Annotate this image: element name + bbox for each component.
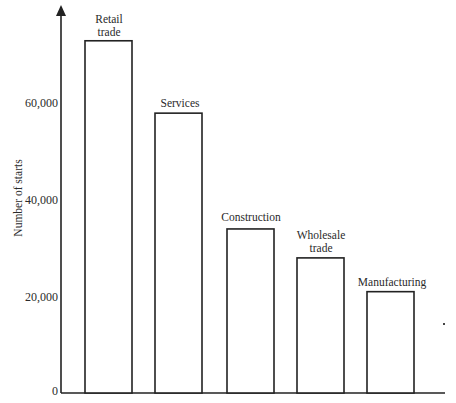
bar-label-services: Services: [149, 97, 211, 110]
bar-label-line1: Services: [149, 97, 211, 110]
y-axis-label: Number of starts: [12, 148, 24, 248]
bar-label-retail-trade: Retail trade: [78, 13, 140, 39]
y-tick-20000: 20,000: [0, 290, 58, 305]
bar-label-line1: Construction: [213, 211, 289, 224]
bar-label-construction: Construction: [213, 211, 289, 224]
y-tick-40000: 40,000: [0, 193, 58, 208]
bar-label-wholesale-trade: Wholesale trade: [289, 229, 353, 255]
bar-label-line1: Manufacturing: [352, 276, 432, 289]
y-axis-arrow-icon: [56, 5, 66, 16]
y-tick-0: 0: [0, 384, 58, 399]
bar-label-line1: Wholesale: [289, 229, 353, 242]
bar-label-line2: trade: [78, 26, 140, 39]
bar-wholesale-trade: [297, 258, 344, 393]
bar-label-manufacturing: Manufacturing: [352, 276, 432, 289]
bar-services: [155, 113, 202, 393]
speck: [443, 323, 445, 325]
bar-construction: [227, 229, 274, 393]
bar-manufacturing: [367, 292, 414, 393]
bar-label-line1: Retail: [78, 13, 140, 26]
bar-retail-trade: [85, 41, 132, 393]
bar-label-line2: trade: [289, 242, 353, 255]
y-tick-60000: 60,000: [0, 96, 58, 111]
bar-chart: [0, 0, 456, 403]
